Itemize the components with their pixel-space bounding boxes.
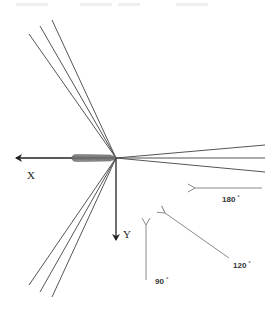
ray-group-upper-left [29, 20, 116, 158]
body-shape [72, 154, 116, 161]
ray [116, 145, 265, 158]
x-axis-label: X [27, 169, 35, 181]
angle-label-90: 90° [155, 276, 169, 286]
ray [40, 158, 116, 292]
direction-arrow-120: 120° [165, 213, 251, 270]
arrow-120-icon [165, 213, 229, 258]
ray-group-right [116, 145, 265, 172]
ray [52, 20, 116, 158]
ray [116, 158, 265, 172]
incidence-angle-diagram: X Y 180° 120° 90° [0, 0, 278, 310]
angle-label-180: 180° [222, 194, 240, 204]
direction-arrow-180: 180° [195, 188, 262, 204]
cropped-header-remnant [16, 3, 208, 6]
angle-label-120: 120° [233, 260, 251, 270]
y-axis-label: Y [123, 228, 131, 240]
ray [29, 34, 116, 158]
ray-group-lower-left [29, 158, 116, 297]
ray [40, 26, 116, 158]
ray [29, 158, 116, 285]
ray [52, 158, 116, 297]
direction-arrow-90: 90° [146, 225, 169, 286]
